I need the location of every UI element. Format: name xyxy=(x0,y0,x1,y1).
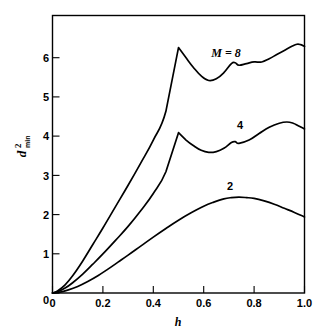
x-axis-title: h xyxy=(175,315,182,329)
x-ticklabel-3: 0.6 xyxy=(196,297,211,309)
x-ticklabel-4: 0.8 xyxy=(246,297,261,309)
curve-m8 xyxy=(53,44,305,293)
plot-frame xyxy=(53,16,305,294)
y-ticklabel-6: 6 xyxy=(43,52,49,64)
x-axis-tick-labels: 0 0.2 0.4 0.6 0.8 1.0 xyxy=(49,297,312,309)
y-axis-title-subscript: min xyxy=(24,136,31,148)
y-axis-tick-labels: 0 1 2 3 4 5 6 xyxy=(43,52,50,306)
y-axis-title-base: d xyxy=(14,150,29,157)
chart-figure: 0 1 2 3 4 5 6 0 0.2 0.4 0.6 0.8 1.0 h xyxy=(0,0,324,335)
y-ticklabel-1: 1 xyxy=(43,248,49,260)
curve-m4 xyxy=(53,122,305,293)
chart-plot-area: 0 1 2 3 4 5 6 0 0.2 0.4 0.6 0.8 1.0 h xyxy=(0,0,324,335)
y-axis-ticks xyxy=(53,58,60,293)
curve-label-m2: 2 xyxy=(227,180,233,192)
curve-m2 xyxy=(53,197,305,293)
y-ticklabel-2: 2 xyxy=(43,209,49,221)
curve-label-m8: M = 8 xyxy=(210,46,241,60)
y-ticklabel-0: 0 xyxy=(43,294,49,306)
data-curves xyxy=(53,44,305,293)
y-ticklabel-5: 5 xyxy=(43,91,49,103)
curve-label-m4: 4 xyxy=(237,119,244,131)
x-ticklabel-1: 0.2 xyxy=(95,297,110,309)
x-ticklabel-5: 1.0 xyxy=(297,297,312,309)
x-ticklabel-2: 0.4 xyxy=(146,297,162,309)
x-axis-ticks xyxy=(53,286,305,293)
y-axis-title-superscript: 2 xyxy=(13,143,23,148)
y-axis-title: d 2 min xyxy=(13,136,31,158)
y-ticklabel-4: 4 xyxy=(43,130,50,142)
y-ticklabel-3: 3 xyxy=(43,170,49,182)
x-ticklabel-0: 0 xyxy=(49,297,55,309)
